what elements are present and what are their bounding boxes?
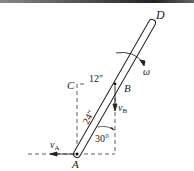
velocity-vA-arrow (50, 152, 75, 156)
label-C: C (67, 79, 75, 91)
rod-AD (77, 23, 152, 154)
omega-label: ω (143, 66, 150, 77)
label-D: D (155, 8, 165, 22)
point-B (114, 83, 117, 86)
vB-label: vB (118, 102, 127, 115)
rod-kinematics-diagram: D C B A 12″ 24″ 30° ω vA vB (0, 0, 194, 171)
vA-label: vA (50, 139, 60, 152)
label-A: A (71, 158, 79, 170)
label-B: B (124, 82, 131, 94)
pivot-A (75, 152, 78, 155)
dimension-CB: 12″ (89, 73, 103, 84)
angle-label: 30° (95, 133, 109, 144)
